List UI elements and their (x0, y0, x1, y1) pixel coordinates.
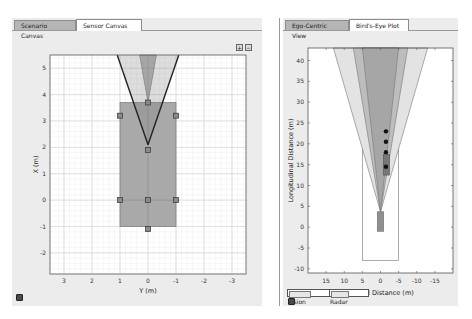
birds-eye-axes[interactable]: 151050-5-10-154035302520151050-5-10Later… (0, 0, 472, 319)
x-tick-label: 5 (360, 277, 364, 284)
x-tick-label: 0 (379, 277, 383, 284)
y-tick-label: 25 (296, 119, 304, 126)
y-tick-label: 40 (296, 57, 304, 64)
legend-radar-label: Radar (330, 298, 348, 305)
legend-radar[interactable]: Radar (329, 289, 369, 297)
detection-point (384, 150, 388, 154)
y-axis-label: Longitudinal Distance (m) (287, 118, 295, 202)
x-tick-label: -5 (396, 277, 402, 284)
radar-swatch (331, 291, 349, 298)
detection-point (384, 140, 388, 144)
y-tick-label: 35 (296, 77, 304, 84)
x-tick-label: 10 (340, 277, 348, 284)
legend-vision[interactable]: Vision (287, 289, 331, 297)
detection-point (384, 129, 388, 133)
x-tick-label: -15 (430, 277, 440, 284)
y-tick-label: 15 (296, 161, 304, 168)
y-tick-label: 10 (296, 182, 304, 189)
y-tick-label: 30 (296, 98, 304, 105)
settings-icon[interactable] (288, 298, 295, 305)
ego-vehicle (377, 212, 384, 232)
x-tick-label: 15 (322, 277, 330, 284)
y-tick-label: 20 (296, 140, 304, 147)
y-tick-label: 0 (300, 223, 304, 230)
vision-swatch (289, 291, 311, 298)
x-tick-label: -10 (412, 277, 422, 284)
y-tick-label: -5 (298, 244, 304, 251)
detection-point (384, 165, 388, 169)
y-tick-label: 5 (300, 202, 304, 209)
y-tick-label: -10 (294, 265, 304, 272)
